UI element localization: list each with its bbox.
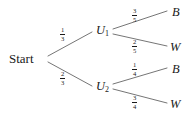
- edge-label-u2-w: 3 4: [132, 95, 137, 110]
- edge-label-u1-w-denominator: 5: [132, 47, 137, 54]
- node-leaf-b-bottom: B: [172, 63, 180, 76]
- node-leaf-w-top-label: W: [170, 40, 180, 54]
- edge-label-u1-b-numerator: 3: [132, 8, 137, 15]
- edge-label-u1-b-denominator: 5: [132, 16, 137, 23]
- node-u1-subscript: 1: [105, 29, 109, 38]
- edge-label-start-u1-numerator: 1: [60, 27, 65, 34]
- edge-u2-b2: [113, 68, 167, 84]
- edge-label-start-u1-denominator: 3: [60, 35, 65, 42]
- edge-u1-w1: [113, 34, 167, 46]
- edge-label-u1-w: 2 5: [132, 39, 137, 54]
- node-u1: U1: [96, 24, 109, 38]
- edge-label-u1-w-numerator: 2: [132, 39, 137, 46]
- edge-label-u2-w-numerator: 3: [132, 95, 137, 102]
- edge-label-u2-b-numerator: 1: [132, 62, 137, 69]
- probability-tree-diagram: Start U1 U2 B W B W 1 3 2 3 3 5 2 5 1: [0, 0, 194, 118]
- node-u2: U2: [96, 80, 109, 94]
- node-start: Start: [9, 52, 34, 65]
- node-start-label: Start: [9, 51, 34, 66]
- edge-label-start-u2-numerator: 2: [60, 71, 65, 78]
- node-u2-label: U: [96, 79, 105, 93]
- edge-label-u2-w-denominator: 4: [132, 103, 137, 110]
- node-leaf-w-top: W: [170, 41, 180, 54]
- node-leaf-b-bottom-label: B: [172, 62, 180, 76]
- node-leaf-b-top-label: B: [172, 5, 180, 19]
- node-leaf-w-bottom-label: W: [170, 97, 180, 111]
- node-leaf-b-top: B: [172, 6, 180, 19]
- edge-label-start-u2-denominator: 3: [60, 79, 65, 86]
- edge-label-u1-b: 3 5: [132, 8, 137, 23]
- edge-u1-b1: [113, 11, 167, 29]
- edge-u2-w2: [113, 89, 167, 103]
- node-u1-label: U: [96, 23, 105, 37]
- node-u2-subscript: 2: [105, 85, 109, 94]
- edge-label-u2-b: 1 4: [132, 62, 137, 77]
- edge-label-start-u2: 2 3: [60, 71, 65, 86]
- edge-label-u2-b-denominator: 4: [132, 70, 137, 77]
- edge-start-u2: [48, 62, 92, 86]
- node-leaf-w-bottom: W: [170, 98, 180, 111]
- edge-start-u1: [48, 32, 92, 56]
- edge-label-start-u1: 1 3: [60, 27, 65, 42]
